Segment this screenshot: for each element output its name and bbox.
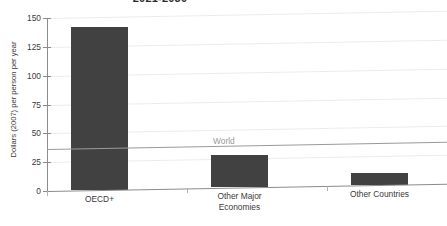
world-reference-label: World <box>213 136 235 146</box>
x-axis-tick <box>327 186 328 191</box>
y-axis-tick-inner <box>47 47 51 48</box>
x-axis-category-label: OECD+ <box>85 194 114 205</box>
y-axis-tick-inner <box>47 18 51 19</box>
bar <box>71 27 128 190</box>
x-axis-category-label-line: Other Countries <box>350 189 409 200</box>
x-axis-category-label: Other Countries <box>350 189 409 200</box>
x-axis-tick <box>47 191 48 196</box>
y-axis-tick-inner <box>47 76 51 77</box>
y-axis-tick-inner <box>47 162 51 163</box>
x-axis-tick <box>187 188 188 193</box>
x-axis-category-label: Other MajorEconomies <box>217 191 261 212</box>
y-axis-tick-label: 25 <box>32 157 41 167</box>
x-axis-category-label-line: Economies <box>217 202 261 213</box>
y-axis-tick-label: 0 <box>36 186 41 196</box>
y-axis-tick-label: 125 <box>27 42 41 52</box>
plot-area: 0255075100125150 World OECD+Other MajorE… <box>47 18 447 191</box>
y-axis-tick-inner <box>47 105 51 106</box>
y-axis-tick-label: 75 <box>32 100 41 110</box>
bar <box>351 173 408 185</box>
y-axis-tick-label: 150 <box>27 13 41 23</box>
y-axis-tick-label: 100 <box>27 71 41 81</box>
x-axis-category-label-line: OECD+ <box>85 194 114 205</box>
gridline <box>47 11 447 19</box>
chart-figure: 2021-2030 Dollars (2007) per person per … <box>0 0 447 226</box>
y-axis-tick-label: 50 <box>32 128 41 138</box>
y-axis-title: Dollars (2007) per person per year <box>9 15 18 185</box>
chart-title: 2021-2030 <box>0 0 320 4</box>
x-axis-category-label-line: Other Major <box>217 191 261 202</box>
bar <box>211 155 268 187</box>
y-axis-tick-inner <box>47 133 51 134</box>
